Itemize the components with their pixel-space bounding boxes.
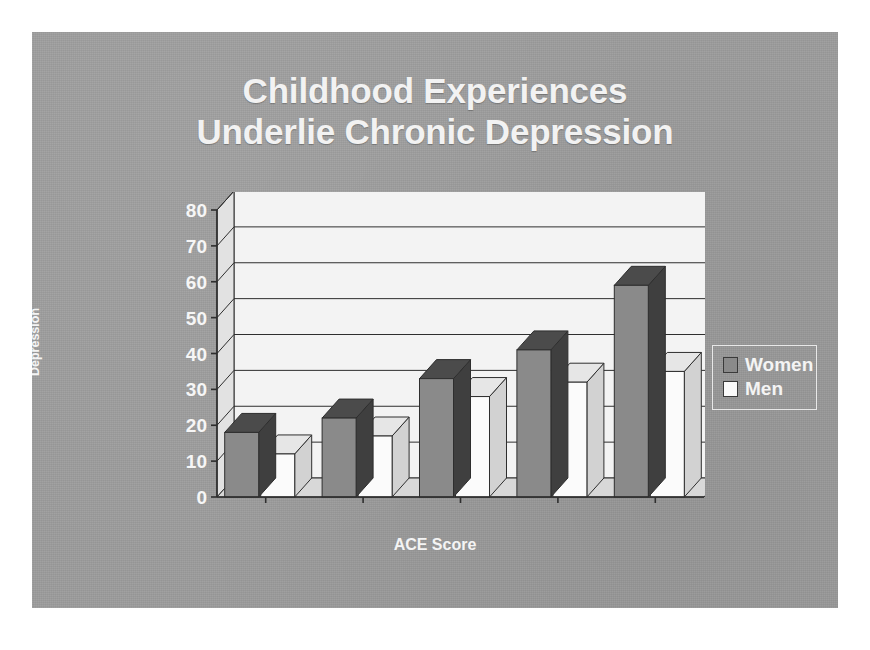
y-tick-70: 70 bbox=[186, 236, 207, 257]
x-tick-2: 2 bbox=[455, 509, 466, 512]
y-tick-10: 10 bbox=[186, 451, 207, 472]
chart-title-line-2: Underlie Chronic Depression bbox=[32, 111, 838, 152]
y-tick-0: 0 bbox=[196, 487, 207, 508]
chart-legend: Women Men bbox=[712, 345, 817, 410]
y-tick-50: 50 bbox=[186, 308, 207, 329]
y-tick-30: 30 bbox=[186, 379, 207, 400]
bar-women-ace-0 bbox=[225, 413, 276, 497]
x-tick-0: 0 bbox=[260, 509, 271, 512]
presentation-slide: Childhood Experiences Underlie Chronic D… bbox=[32, 32, 838, 608]
y-tick-20: 20 bbox=[186, 415, 207, 436]
y-axis-title-line-2: Depression bbox=[32, 192, 43, 492]
bar-chart-3d: 01020304050607080 0123>=4 bbox=[185, 192, 705, 512]
slide-canvas: Childhood Experiences Underlie Chronic D… bbox=[0, 0, 870, 650]
chart-title-line-1: Childhood Experiences bbox=[32, 70, 838, 111]
y-tick-80: 80 bbox=[186, 200, 207, 221]
y-tick-labels: 01020304050607080 bbox=[186, 200, 207, 508]
chart-title: Childhood Experiences Underlie Chronic D… bbox=[32, 70, 838, 152]
x-tick-labels: 0123>=4 bbox=[260, 509, 672, 512]
y-tick-60: 60 bbox=[186, 272, 207, 293]
plot-area: 01020304050607080 0123>=4 bbox=[185, 192, 705, 512]
bar-women-ace-2 bbox=[420, 360, 471, 497]
y-tick-40: 40 bbox=[186, 344, 207, 365]
x-tick-3: 3 bbox=[553, 509, 564, 512]
x-tick-4: >=4 bbox=[639, 509, 672, 512]
legend-label-women: Women bbox=[745, 355, 813, 375]
legend-item-men: Men bbox=[713, 377, 816, 401]
legend-swatch-women bbox=[723, 357, 738, 373]
x-tick-1: 1 bbox=[358, 509, 369, 512]
bar-women-ace->=4 bbox=[614, 266, 665, 497]
bar-women-ace-1 bbox=[322, 399, 373, 497]
y-axis-title: % With a Lifetime History of Depression bbox=[32, 192, 45, 492]
legend-swatch-men bbox=[723, 381, 738, 397]
legend-label-men: Men bbox=[745, 379, 783, 399]
bar-women-ace-3 bbox=[517, 331, 568, 497]
x-axis-title: ACE Score bbox=[185, 536, 685, 554]
legend-item-women: Women bbox=[713, 353, 816, 377]
